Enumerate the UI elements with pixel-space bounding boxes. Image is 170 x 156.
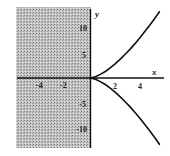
x-tick-label: 4 (138, 82, 142, 91)
y-tick-label: -5 (79, 100, 86, 109)
lower-curve (91, 78, 160, 144)
curve-plot: x y -4 -2 2 4 10 5 -5 -10 (0, 0, 170, 156)
x-axis-label: x (151, 67, 157, 77)
y-axis-label: y (94, 9, 100, 19)
upper-curve (91, 12, 160, 78)
x-tick-label: 2 (113, 82, 117, 91)
y-tick-label: -10 (76, 125, 87, 134)
x-tick-label: -4 (36, 81, 43, 90)
x-tick-label: -2 (60, 81, 67, 90)
y-tick-label: 5 (82, 51, 86, 60)
y-tick-label: 10 (79, 24, 87, 33)
